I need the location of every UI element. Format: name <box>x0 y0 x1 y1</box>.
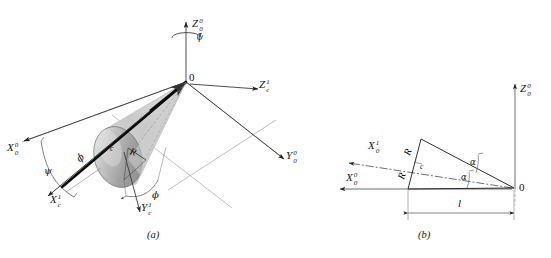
caption-a: (a) <box>147 230 159 241</box>
label-center-c-panel-b: c <box>420 163 423 171</box>
phi-arc-tip <box>121 196 126 199</box>
caption-b: (b) <box>418 230 430 241</box>
label-x0-0-panel-b: X00 <box>346 172 353 183</box>
zc-axis-line <box>190 84 258 89</box>
label-z0-0-panel-a: Z00 <box>192 18 198 29</box>
figure-canvas <box>0 0 551 258</box>
label-x0-1-panel-b: X10 <box>368 140 375 151</box>
b-alpha-lower-arc <box>467 172 469 188</box>
panel-b-graphics <box>340 84 515 220</box>
label-x0-0-panel-a: X00 <box>7 142 14 153</box>
b-upper-generator <box>421 139 514 188</box>
label-yc-1-panel-a: Y1c <box>141 202 147 213</box>
b-x01-axis-line <box>349 163 512 188</box>
b-alpha-upper-tick <box>478 153 483 154</box>
label-origin-panel-a: 0 <box>189 72 195 83</box>
label-z0-0-panel-b: Z00 <box>520 83 526 94</box>
b-alpha-upper-arc <box>476 155 478 173</box>
label-alpha-upper-panel-b: α <box>470 158 476 167</box>
psi-arc-tick-1 <box>41 137 44 141</box>
label-alpha-lower-panel-b: α <box>461 173 467 182</box>
label-xc-1-panel-a: X1c <box>50 194 57 205</box>
b-alpha-lower-tick <box>469 170 474 171</box>
y0-axis-line <box>186 82 284 159</box>
label-y0-0-panel-a: Y00 <box>286 150 292 161</box>
plane-cross-line-b <box>168 120 276 190</box>
figure-root: Z00 ψ̇ 0 Z1c Y00 X00 X1c Y1c ψ ϕ ϕ̇ c R … <box>0 0 551 258</box>
label-length-l-panel-b: l <box>458 198 461 209</box>
label-psi-dot: ψ̇ <box>196 33 203 42</box>
label-origin-panel-b: 0 <box>519 182 525 193</box>
panel-a-graphics <box>22 22 284 212</box>
label-center-c-panel-a: c <box>110 145 114 153</box>
phi-arc-leg-1 <box>158 147 166 180</box>
label-zc-1-panel-a: Z1c <box>259 79 265 90</box>
psi-arc-tick-2 <box>74 193 77 197</box>
label-phi-panel-a: ϕ <box>152 190 159 200</box>
label-psi-panel-a: ψ <box>44 166 52 176</box>
